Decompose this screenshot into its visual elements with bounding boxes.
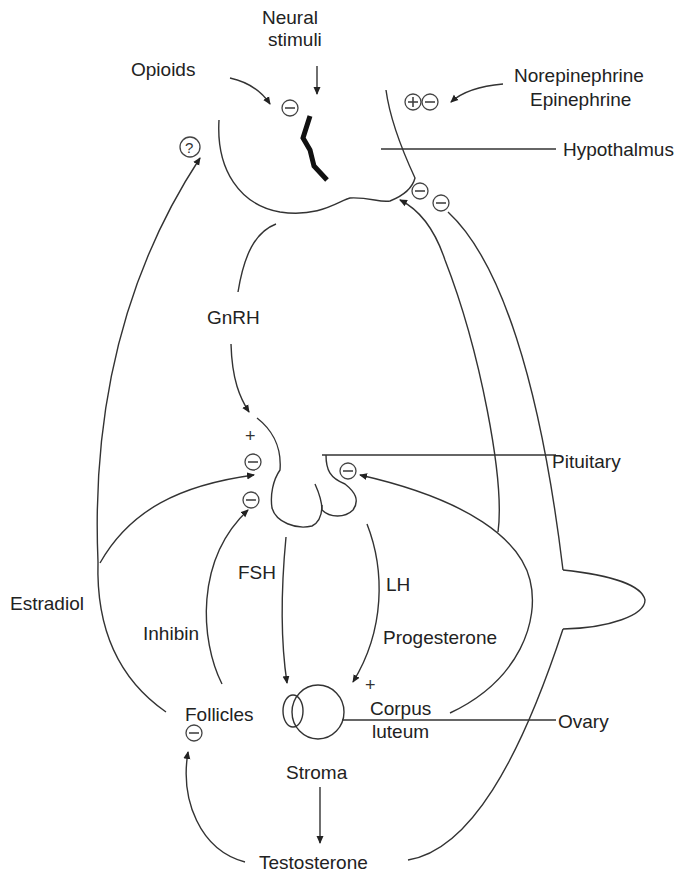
lh-arrow: [353, 524, 379, 682]
testosterone-to-hypothalamus-line: [448, 212, 563, 570]
fsh-label: FSH: [238, 562, 276, 583]
unknown-effect-icon: ?: [180, 137, 200, 157]
testosterone-label: Testosterone: [259, 852, 368, 873]
pituitary-label: Pituitary: [552, 451, 621, 472]
gnrh-arrow: [231, 344, 249, 412]
positive-sign-icon: [405, 94, 421, 110]
positive-sign: +: [365, 675, 376, 695]
fsh-arrow: [282, 537, 287, 683]
estradiol-to-pituitary-arrow: [100, 475, 254, 563]
testosterone-to-follicles-arrow: [186, 752, 245, 862]
negative-sign-icon: [340, 463, 356, 479]
progesterone-to-hypothalamus-arrow: [400, 200, 499, 532]
negative-sign-icon: [282, 100, 298, 116]
neural-pathway-icon: [303, 116, 327, 180]
neural-stimuli-label-line1: Neural: [262, 7, 318, 28]
positive-sign: +: [245, 426, 256, 446]
negative-sign-icon: [245, 454, 261, 470]
epinephrine-label: Epinephrine: [530, 89, 631, 110]
norepinephrine-label: Norepinephrine: [514, 65, 644, 86]
uterus-tube-outline: [563, 570, 645, 629]
stroma-label: Stroma: [286, 762, 348, 783]
follicles-label: Follicles: [185, 704, 254, 725]
testosterone-loop-line: [408, 629, 563, 860]
corpus-luteum-label-line2: luteum: [372, 721, 429, 742]
hypothalamus-label: Hypothalmus: [563, 139, 674, 160]
gnrh-label: GnRH: [207, 307, 260, 328]
negative-sign-icon: [422, 94, 438, 110]
estradiol-label: Estradiol: [10, 593, 84, 614]
hypothalamus-outline: [219, 90, 415, 213]
reproductive-axis-diagram: Hypothalmus Pituitary Neural stimuli Opi…: [0, 0, 690, 883]
estradiol-to-hypothalamus-arrow: [97, 158, 200, 562]
negative-sign-icon: [412, 183, 428, 199]
opioids-arrow: [230, 78, 270, 104]
corpus-luteum-label-line1: Corpus: [370, 698, 431, 719]
negative-sign-icon: [186, 725, 202, 741]
lh-label: LH: [386, 574, 410, 595]
neural-stimuli-label-line2: stimuli: [268, 29, 322, 50]
stalk-line: [238, 224, 276, 292]
opioids-label: Opioids: [131, 59, 195, 80]
catecholamine-arrow: [451, 84, 503, 102]
negative-sign-icon: [243, 492, 259, 508]
ovary-label: Ovary: [558, 711, 609, 732]
inhibin-arrow: [206, 510, 248, 684]
progesterone-label: Progesterone: [383, 627, 497, 648]
inhibin-label: Inhibin: [143, 623, 199, 644]
ovary-structure: [283, 685, 344, 739]
svg-text:?: ?: [185, 139, 193, 156]
negative-sign-icon: [433, 195, 449, 211]
